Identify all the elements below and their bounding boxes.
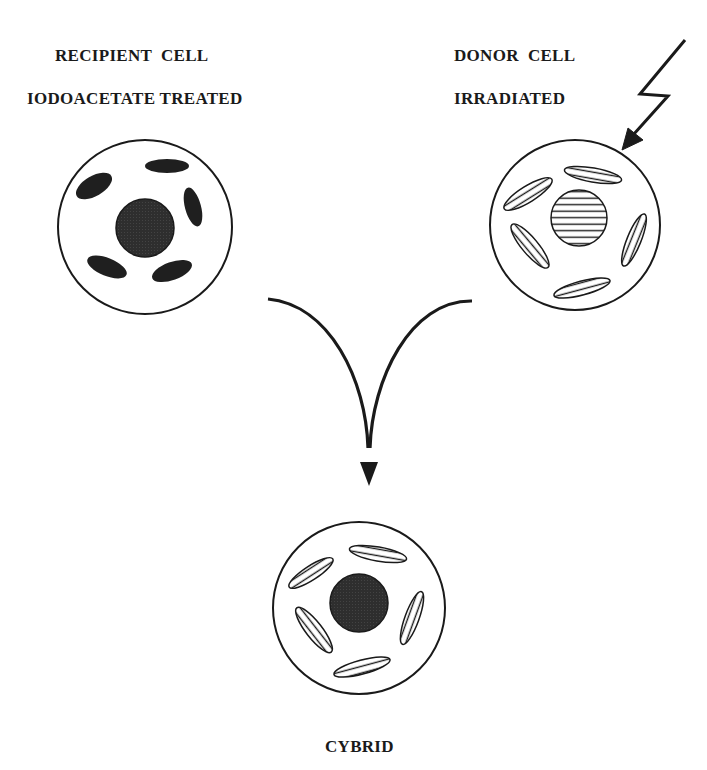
recipient-cell: [58, 140, 232, 314]
donor-nucleus: [551, 190, 607, 246]
cybrid-cell: [273, 522, 445, 694]
arrowhead-icon: [360, 462, 378, 486]
recipient-to-cybrid-arrow: [268, 299, 368, 448]
donor-to-cybrid-arrow: [370, 301, 472, 448]
recipient-nucleus: [116, 199, 174, 257]
cybrid-diagram: RECIPIENT CELL IODOACETATE TREATED DONOR…: [0, 0, 707, 770]
cybrid-nucleus: [330, 574, 388, 632]
fusion-arrows: [268, 299, 472, 448]
radiation-lightning-arrow: [622, 40, 685, 150]
diagram-graphics: [0, 0, 707, 770]
donor-cell: [490, 140, 660, 310]
